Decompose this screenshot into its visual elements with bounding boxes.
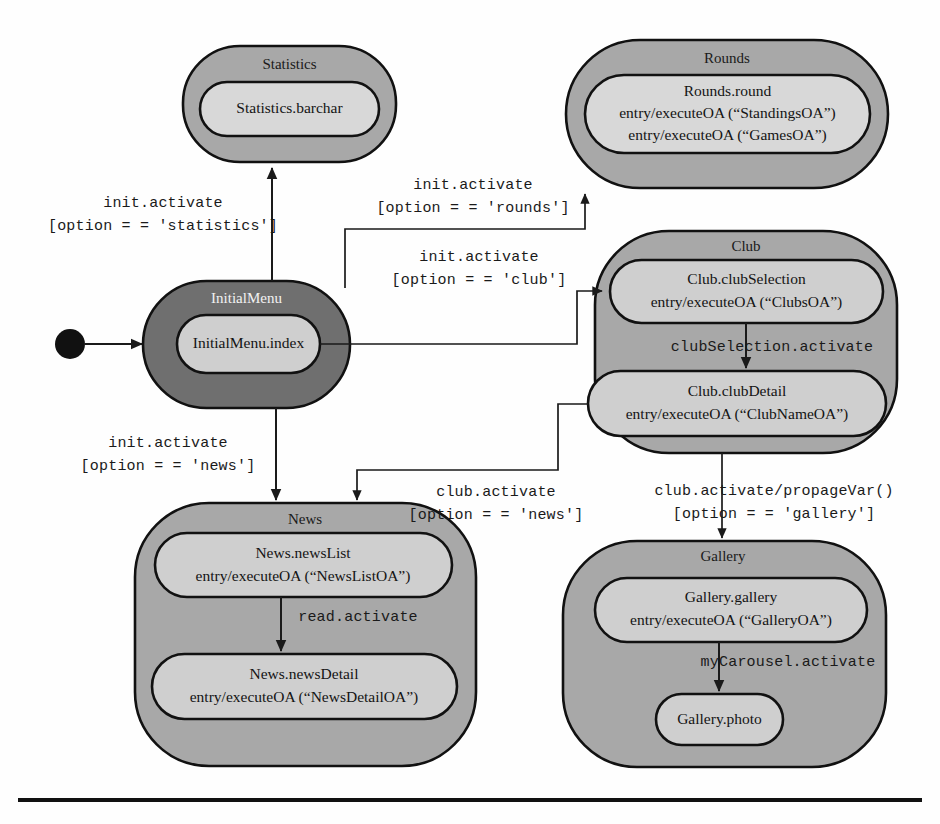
substate-gallery-photo-line-0: Gallery.photo	[677, 710, 762, 727]
transition-to-statistics-label-0: init.activate	[103, 195, 223, 212]
transition-to-club: init.activate [option = = 'club']	[320, 249, 602, 344]
substate-gallery-gallery-line-1: entry/executeOA (“GalleryOA”)	[630, 611, 832, 629]
substate-news-newsdetail-line-0: News.newsDetail	[250, 665, 359, 682]
substate-club-clubdetail-line-0: Club.clubDetail	[688, 382, 787, 399]
state-club[interactable]: Club Club.clubSelection entry/executeOA …	[588, 231, 897, 453]
initial-state-dot	[55, 329, 142, 359]
statechart-svg: Statistics Statistics.barchar Rounds Rou…	[0, 0, 940, 824]
substate-initialmenu-index-line-0: InitialMenu.index	[193, 334, 305, 351]
transition-to-news-label-1: [option = = 'news']	[81, 458, 256, 475]
substate-rounds-round-line-1: entry/executeOA (“StandingsOA”)	[619, 104, 836, 122]
state-news-title: News	[288, 511, 322, 527]
substate-news-newsdetail[interactable]: News.newsDetail entry/executeOA (“NewsDe…	[152, 654, 457, 719]
substate-rounds-round-line-0: Rounds.round	[684, 82, 772, 99]
substate-news-newslist-line-1: entry/executeOA (“NewsListOA”)	[196, 567, 411, 585]
substate-statistics-barchar[interactable]: Statistics.barchar	[200, 82, 379, 136]
substate-initialmenu-index[interactable]: InitialMenu.index	[177, 315, 320, 373]
substate-rounds-round-line-2: entry/executeOA (“GamesOA”)	[628, 126, 826, 144]
transition-clubselection-to-clubdetail-label-0: clubSelection.activate	[671, 339, 873, 356]
substate-club-clubdetail-line-1: entry/executeOA (“ClubNameOA”)	[626, 405, 849, 423]
substate-club-clubselection[interactable]: Club.clubSelection entry/executeOA (“Clu…	[610, 260, 883, 323]
transition-to-rounds-label-0: init.activate	[413, 177, 533, 194]
transition-to-club-path	[320, 291, 602, 344]
state-gallery[interactable]: Gallery Gallery.gallery entry/executeOA …	[563, 541, 886, 767]
statechart-canvas: Statistics Statistics.barchar Rounds Rou…	[0, 0, 940, 824]
transition-to-news-label-0: init.activate	[108, 435, 228, 452]
substate-club-clubselection-line-1: entry/executeOA (“ClubsOA”)	[651, 293, 843, 311]
state-club-title: Club	[731, 238, 760, 254]
state-initialmenu[interactable]: InitialMenu InitialMenu.index	[143, 281, 350, 408]
state-rounds[interactable]: Rounds Rounds.round entry/executeOA (“St…	[566, 40, 888, 188]
transition-clubdetail-to-news-label-0: club.activate	[436, 484, 556, 501]
substate-club-clubdetail[interactable]: Club.clubDetail entry/executeOA (“ClubNa…	[588, 371, 886, 436]
substate-gallery-gallery-line-0: Gallery.gallery	[685, 588, 778, 605]
transition-clubdetail-to-gallery-label-1: [option = = 'gallery']	[673, 506, 875, 523]
transition-to-statistics: init.activate [option = = 'statistics']	[48, 168, 278, 281]
initial-state-dot-circle	[55, 329, 85, 359]
substate-news-newsdetail-line-1: entry/executeOA (“NewsDetailOA”)	[190, 688, 419, 706]
substate-news-newslist-line-0: News.newsList	[255, 544, 351, 561]
substate-club-clubselection-line-0: Club.clubSelection	[687, 270, 806, 287]
substate-gallery-photo[interactable]: Gallery.photo	[656, 694, 783, 745]
substate-news-newslist[interactable]: News.newsList entry/executeOA (“NewsList…	[155, 533, 452, 597]
transition-to-statistics-label-1: [option = = 'statistics']	[48, 218, 278, 235]
substate-rounds-round[interactable]: Rounds.round entry/executeOA (“Standings…	[585, 75, 870, 153]
transition-gallery-to-photo-label-0: myCarousel.activate	[701, 654, 876, 671]
transition-to-rounds-label-1: [option = = 'rounds']	[376, 200, 569, 217]
transition-to-club-label-0: init.activate	[419, 249, 539, 266]
state-rounds-title: Rounds	[704, 50, 750, 66]
transition-to-news: init.activate [option = = 'news']	[81, 408, 276, 500]
state-statistics[interactable]: Statistics Statistics.barchar	[183, 46, 396, 162]
transition-clubdetail-to-gallery-label-0: club.activate/propageVar()	[654, 483, 893, 500]
transition-clubdetail-to-gallery: club.activate/propageVar() [option = = '…	[654, 453, 893, 538]
state-gallery-title: Gallery	[701, 548, 746, 564]
transition-clubdetail-to-news-label-1: [option = = 'news']	[409, 507, 584, 524]
substate-gallery-gallery[interactable]: Gallery.gallery entry/executeOA (“Galler…	[595, 578, 867, 642]
state-statistics-title: Statistics	[262, 56, 316, 72]
state-initialmenu-title: InitialMenu	[211, 290, 282, 306]
transition-to-club-label-1: [option = = 'club']	[392, 272, 567, 289]
substate-statistics-barchar-line-0: Statistics.barchar	[236, 99, 343, 116]
transition-newslist-to-newsdetail-label-0: read.activate	[298, 609, 418, 626]
state-news[interactable]: News News.newsList entry/executeOA (“New…	[135, 503, 476, 766]
